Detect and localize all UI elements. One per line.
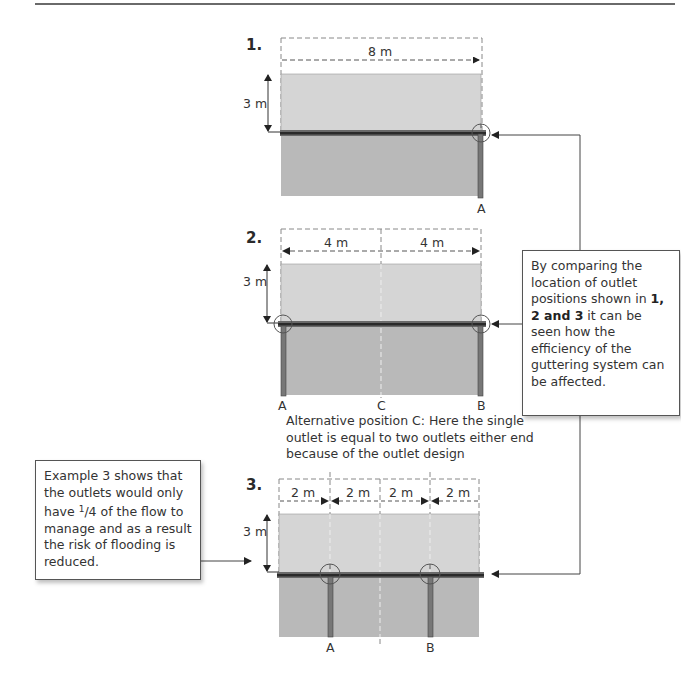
width-label-1: 4 m [324, 235, 348, 250]
width-label-4: 2 m [446, 485, 470, 500]
outlet-label-b: B [426, 640, 435, 655]
diagram-2: 2. 4 m 4 m 3 m A C B [243, 229, 490, 413]
outlet-label-a: A [278, 398, 287, 413]
outlet-label-c: C [377, 398, 386, 413]
fraction-denominator: /4 [84, 504, 96, 519]
width-label: 8 m [368, 44, 392, 59]
diagram-3: 3. 2 m 2 m 2 m 2 m 3 m A [243, 472, 484, 655]
height-label: 3 m [243, 96, 267, 111]
outlet-label-a: A [477, 201, 486, 216]
outlet-label-b: B [477, 398, 486, 413]
width-label-2: 4 m [420, 235, 444, 250]
outlet-label-a: A [326, 640, 335, 655]
height-label: 3 m [243, 524, 267, 539]
diagram-number: 3. [246, 476, 262, 494]
width-label-2: 2 m [346, 485, 370, 500]
width-label-3: 2 m [389, 485, 413, 500]
height-label: 3 m [243, 274, 267, 289]
example-3-callout: Example 3 shows that the outlets would o… [35, 460, 201, 580]
comparison-callout: By comparing the location of outlet posi… [522, 250, 680, 416]
diagram-number: 1. [246, 36, 262, 54]
diagram-1: 1. 8 m 3 m A [243, 36, 490, 216]
alternative-position-note: Alternative position C: Here the single … [286, 413, 556, 463]
diagram-number: 2. [246, 229, 262, 247]
width-label-1: 2 m [291, 485, 315, 500]
callout-text: By comparing the location of outlet posi… [531, 258, 651, 306]
